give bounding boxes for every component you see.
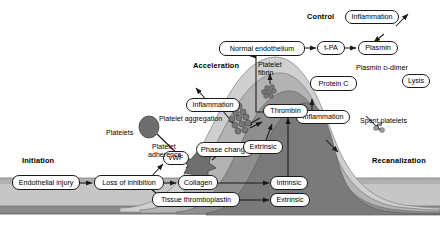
phase-label-recanalization: Recanalization [372, 157, 426, 165]
node-loss-of-inhibition[interactable]: Loss of inhibition [94, 175, 164, 190]
label-plasmin-d-dimer-suffix: -dimer [388, 64, 408, 72]
node-plasmin[interactable]: Plasmin [358, 41, 398, 55]
node-intrinsic[interactable]: Intrinsic [270, 176, 308, 190]
node-collagen[interactable]: Collagen [178, 175, 218, 190]
label-platelet-fibrin-line2: fibrin [258, 70, 273, 78]
label-platelets: Platelets [106, 130, 133, 138]
label-platelet-adherence-line2: adherence [148, 152, 182, 160]
node-inflammation-acceleration[interactable]: Inflammation [186, 98, 240, 112]
node-normal-endothelium[interactable]: Normal endothelium [219, 41, 305, 56]
node-lysis[interactable]: Lysis [402, 74, 430, 88]
node-extrinsic-lower[interactable]: Extrinsic [270, 193, 310, 207]
phase-label-control: Control [307, 13, 334, 21]
label-plasmin-d-dimer: Plasmin D-dimer [356, 65, 408, 73]
node-endothelial-injury[interactable]: Endothelial injury [12, 175, 80, 190]
node-thrombin[interactable]: Thrombin [263, 104, 308, 118]
node-tpa[interactable]: t-PA [317, 41, 345, 55]
node-inflammation-top[interactable]: Inflammation [345, 10, 399, 24]
node-tissue-thromboplastin[interactable]: Tissue thromboplastin [152, 192, 240, 207]
label-plasmin-d-dimer-word: Plasmin [356, 64, 381, 72]
platelet-oval [139, 116, 159, 138]
node-extrinsic-middle[interactable]: Extrinsic [243, 140, 283, 154]
phase-label-acceleration: Acceleration [193, 62, 239, 70]
phase-label-initiation: Initiation [22, 157, 54, 165]
label-platelet-aggregation: Platelet aggregation [159, 116, 222, 124]
label-spent-platelets: Spent platelets [360, 118, 407, 126]
node-protein-c[interactable]: Protein C [310, 76, 357, 91]
diagram-canvas: Initiation Acceleration Control Recanali… [0, 0, 440, 230]
